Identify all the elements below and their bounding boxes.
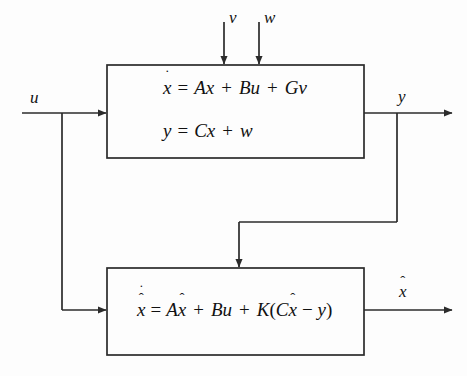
term-y-lhs: y <box>163 120 171 141</box>
x-hat-dot-glyph: ˙ˆx <box>137 300 145 319</box>
plus-sign-1: + <box>221 77 232 98</box>
equals-sign: = <box>150 299 161 320</box>
term-Cx: Cx <box>194 120 215 141</box>
minus-sign: − <box>302 299 313 320</box>
equals-sign: = <box>177 77 188 98</box>
plus-sign: + <box>222 120 233 141</box>
x-hat-glyph-output: ˆx <box>399 283 407 300</box>
block-diagram: ˙x=Ax+Bu+Gv y=Cx+w ˙ˆx=Aˆx+Bu+K(Cˆx−y) u… <box>0 0 467 376</box>
x-base: x <box>288 300 296 319</box>
term-w: w <box>240 120 253 141</box>
term-Bu: Bu <box>211 299 232 320</box>
term-Ax: Ax <box>194 77 214 98</box>
term-y: y <box>318 299 326 320</box>
signal-label-v: v <box>229 9 237 26</box>
observer-equation: ˙ˆx=Aˆx+Bu+K(Cˆx−y) <box>137 300 332 319</box>
plant-state-equation: ˙x=Ax+Bu+Gv <box>163 78 307 97</box>
coef-C: C <box>276 299 289 320</box>
term-Gv: Gv <box>285 77 307 98</box>
close-paren: ) <box>326 299 332 320</box>
coef-A: A <box>166 299 178 320</box>
x-base: x <box>163 78 171 97</box>
diagram-canvas <box>0 0 467 376</box>
gain-K: K <box>257 299 270 320</box>
plus-sign-2: + <box>239 299 250 320</box>
x-base: x <box>178 300 186 319</box>
signal-label-xhat: ˆx <box>399 283 407 300</box>
signal-label-w: w <box>264 9 275 26</box>
x-hat-glyph-2: ˆx <box>288 300 296 319</box>
x-dot-glyph: ˙x <box>163 78 171 97</box>
x-base: x <box>399 283 407 300</box>
plus-sign-2: + <box>267 77 278 98</box>
plus-sign-1: + <box>193 299 204 320</box>
signal-label-u: u <box>30 89 39 106</box>
x-base: x <box>137 300 145 319</box>
equals-sign: = <box>177 120 188 141</box>
term-Bu: Bu <box>239 77 260 98</box>
x-hat-glyph-1: ˆx <box>178 300 186 319</box>
signal-label-y: y <box>398 88 406 105</box>
plant-output-equation: y=Cx+w <box>163 121 253 140</box>
